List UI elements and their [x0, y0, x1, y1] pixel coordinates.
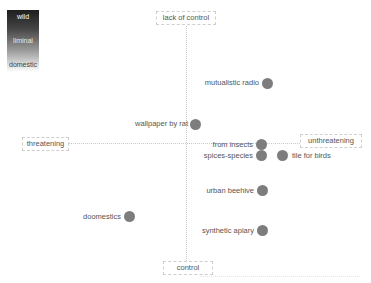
- label-from-insects: from insects: [213, 140, 253, 150]
- label-mutualistic-radio: mutualistic radio: [205, 78, 259, 88]
- dot-synthetic-apiary[interactable]: [257, 225, 268, 236]
- legend-label-domestic: domestic: [7, 61, 39, 68]
- axis-label-control: control: [163, 261, 213, 275]
- label-wallpaper-by-rat: wallpaper by rat: [135, 119, 188, 129]
- axis-label-threatening: threatening: [22, 137, 69, 151]
- dot-doomestics[interactable]: [124, 211, 135, 222]
- dot-from-insects[interactable]: [256, 139, 267, 150]
- label-synthetic-apiary: synthetic apiary: [202, 226, 254, 236]
- footer-divider: [200, 276, 360, 277]
- legend-gradient: wild liminal domestic: [7, 10, 39, 72]
- label-spices-species: spices-species: [204, 151, 253, 161]
- dot-wallpaper-by-rat[interactable]: [190, 119, 201, 130]
- axis-label-lack-of-control: lack of control: [156, 11, 216, 25]
- label-tile-for-birds: tile for birds: [292, 151, 331, 161]
- axis-label-unthreatening: unthreatening: [300, 134, 362, 148]
- legend-label-liminal: liminal: [7, 37, 39, 44]
- label-doomestics: doomestics: [83, 212, 121, 222]
- dot-tile-for-birds[interactable]: [277, 150, 288, 161]
- dot-spices-species[interactable]: [256, 150, 267, 161]
- label-urban-beehive: urban beehive: [206, 186, 254, 196]
- legend-label-wild: wild: [7, 13, 39, 20]
- dot-mutualistic-radio[interactable]: [262, 78, 273, 89]
- dot-urban-beehive[interactable]: [257, 185, 268, 196]
